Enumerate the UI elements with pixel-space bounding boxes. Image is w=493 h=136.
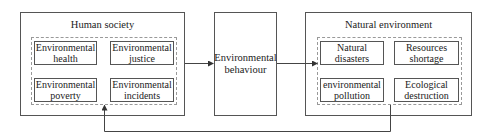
label-line2: incidents [124,90,160,101]
label-line2: health [53,53,77,64]
natural-disasters-box: Natural disasters [320,41,384,65]
label-line1: Natural [337,42,367,53]
label-line2: poverty [50,90,81,101]
resources-shortage-box: Resources shortage [394,41,459,65]
environmental-poverty-box: Environmental poverty [34,78,97,102]
environmental-pollution-box: environmental pollution [320,78,384,102]
natural-environment-title: Natural environment [306,19,471,31]
label-line1: Environmental [112,42,171,53]
environmental-behaviour-box: Environmental behaviour [214,12,277,116]
ecological-destruction-box: Ecological destruction [394,78,459,102]
environmental-incidents-box: Environmental incidents [110,78,174,102]
label-line1: Environmental [36,42,95,53]
label-line1: Ecological [405,79,448,90]
label-line2: disasters [335,53,369,64]
label-line1: Environmental [214,52,276,64]
label-line2: behaviour [225,64,267,76]
label-line2: shortage [410,53,444,64]
environmental-justice-box: Environmental justice [110,41,174,65]
human-society-title: Human society [21,19,184,31]
label-line1: environmental [323,79,381,90]
environmental-health-box: Environmental health [34,41,97,65]
label-line2: pollution [334,90,370,101]
label-line2: destruction [404,90,448,101]
label-line1: Environmental [36,79,95,90]
label-line1: Environmental [112,79,171,90]
label-line2: justice [129,53,155,64]
label-line1: Resources [406,42,447,53]
